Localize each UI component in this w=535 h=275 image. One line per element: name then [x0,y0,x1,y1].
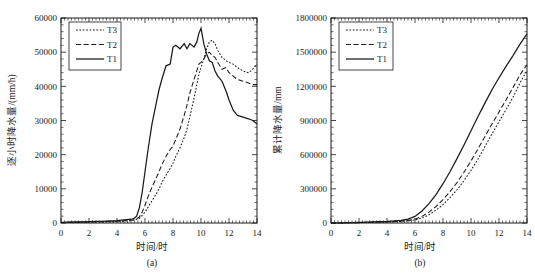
a-ytick-label: 60000 [35,13,58,23]
a-xtick-label: 4 [115,228,120,238]
a-xtick-label: 14 [253,228,263,238]
panel-a-caption: (a) [147,258,158,269]
figure-container: 0246810121401000020000300004000050000600… [0,0,535,275]
b-series-t2 [331,65,527,223]
panel-a-y-axis-title: 逐小时降水量/(mm/h) [6,74,18,165]
a-ytick-label: 0 [53,218,58,228]
panel-b-caption: (b) [414,258,425,269]
b-xtick-label: 0 [329,228,334,238]
b-xtick-label: 14 [523,228,533,238]
a-xtick-label: 10 [197,228,207,238]
a-xtick-label: 8 [171,228,176,238]
a-xtick-label: 6 [143,228,148,238]
panel-b-y-axis-title: 累计降水量/mm [272,86,283,154]
b-ytick-label: 1500000 [296,47,328,57]
a-ytick-label: 40000 [35,82,58,92]
panel-a-x-axis-title: 时间/时 [136,241,169,252]
a-ytick-label: 20000 [35,150,58,160]
a-legend-label-t3: T3 [107,25,117,35]
b-ytick-label: 600000 [300,150,328,160]
b-ytick-label: 0 [323,218,328,228]
b-xtick-label: 10 [467,228,477,238]
a-ytick-label: 50000 [35,47,58,57]
b-legend-label-t3: T3 [377,25,387,35]
b-ytick-label: 1200000 [296,82,328,92]
panel-b: 0246810121403000006000009000001200000150… [268,0,535,275]
panel-a-svg: 0246810121401000020000300004000050000600… [0,0,267,275]
a-xtick-label: 12 [225,228,234,238]
b-xtick-label: 8 [441,228,446,238]
b-xtick-label: 12 [495,228,504,238]
a-xtick-label: 0 [59,228,64,238]
a-ytick-label: 30000 [35,116,58,126]
panel-b-canvas: 0246810121403000006000009000001200000150… [268,0,535,275]
panel-b-svg: 0246810121403000006000009000001200000150… [268,0,535,275]
b-legend-label-t1: T1 [377,54,387,64]
panel-b-x-axis-title: 时间/时 [404,241,437,252]
b-xtick-label: 2 [357,228,362,238]
a-series-t2 [61,52,257,222]
b-xtick-label: 6 [413,228,418,238]
panel-a-canvas: 0246810121401000020000300004000050000600… [0,0,267,275]
panel-a: 0246810121401000020000300004000050000600… [0,0,267,275]
b-ytick-label: 300000 [300,184,328,194]
a-xtick-label: 2 [87,228,92,238]
a-legend-label-t2: T2 [107,40,117,50]
b-ytick-label: 900000 [300,116,328,126]
a-legend-label-t1: T1 [107,54,117,64]
b-series-t3 [331,70,527,223]
b-legend-label-t2: T2 [377,40,387,50]
b-ytick-label: 1800000 [296,13,328,23]
a-ytick-label: 10000 [35,184,58,194]
b-xtick-label: 4 [385,228,390,238]
